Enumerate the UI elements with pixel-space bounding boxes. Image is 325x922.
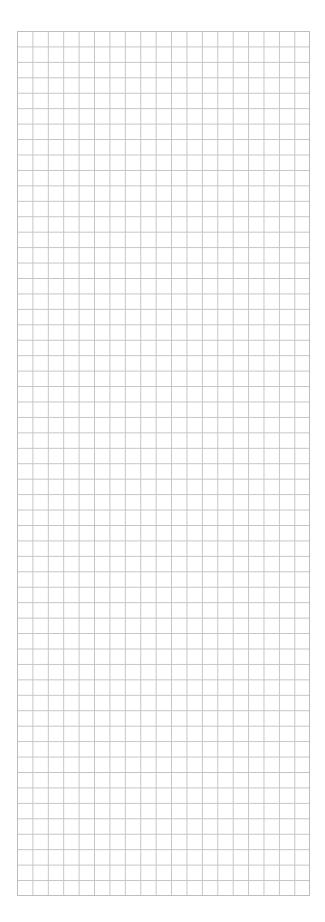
graph-paper-grid bbox=[17, 31, 310, 896]
